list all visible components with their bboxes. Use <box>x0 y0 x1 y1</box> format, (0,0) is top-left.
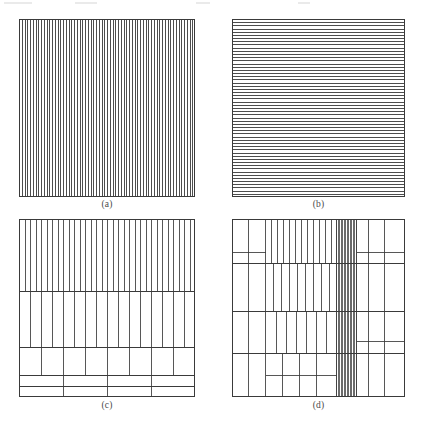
scan-artifact-top-right <box>196 2 210 4</box>
panel-b-caption: (b) <box>232 199 405 209</box>
panel-c <box>19 219 195 397</box>
scan-artifact-top-far <box>298 2 310 4</box>
panel-b-grid <box>232 19 405 197</box>
panel-a-caption: (a) <box>19 199 195 209</box>
panel-d-caption: (d) <box>232 400 405 410</box>
panel-c-caption: (c) <box>19 400 195 410</box>
panel-border <box>233 220 405 397</box>
figure-root: (a) (b) (c) (d) <box>0 0 423 427</box>
panel-d-grid <box>232 219 405 397</box>
panel-d <box>232 219 405 397</box>
panel-border <box>233 20 405 197</box>
panel-c-grid <box>19 219 195 397</box>
panel-a <box>19 19 195 197</box>
panel-b <box>232 19 405 197</box>
scan-artifact-top-left <box>4 2 32 4</box>
panel-a-grid <box>19 19 195 197</box>
scan-artifact-top-mid <box>75 2 97 4</box>
